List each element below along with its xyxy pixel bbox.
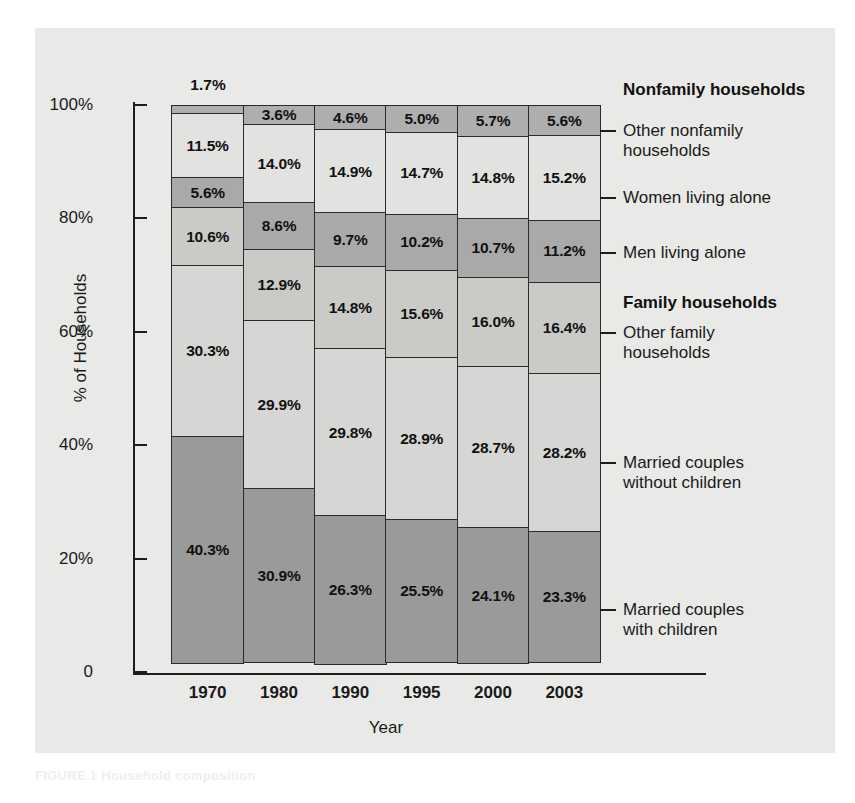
y-tick-label: 40%	[0, 435, 93, 455]
bar-segment[interactable]: 12.9%	[243, 249, 316, 322]
figure-panel: % of Households Year 100%80%60%40%20%0 1…	[35, 28, 835, 753]
legend-label: Men living alone	[623, 243, 746, 263]
bar-segment[interactable]: 10.7%	[457, 218, 530, 279]
x-tick-label-1990: 1990	[315, 683, 386, 703]
bar-column-1970[interactable]: 11.5%5.6%10.6%30.3%40.3%	[172, 105, 243, 672]
y-tick-mark	[133, 671, 147, 673]
top-value-annotation-1970: 1.7%	[172, 76, 244, 94]
bar-segment[interactable]: 5.6%	[528, 105, 601, 137]
bar-segment[interactable]: 23.3%	[528, 531, 601, 663]
bar-segment[interactable]: 16.0%	[457, 277, 530, 368]
bar-column-2003[interactable]: 5.6%15.2%11.2%16.4%28.2%23.3%	[529, 105, 600, 672]
x-axis-title: Year	[172, 718, 600, 738]
legend-label: Other nonfamily households	[623, 121, 743, 161]
legend-label: Other family households	[623, 323, 715, 363]
bar-segment[interactable]: 5.7%	[457, 105, 530, 137]
legend-leader-line-icon	[600, 197, 616, 199]
bar-segment[interactable]: 3.6%	[243, 105, 316, 125]
bar-segment[interactable]: 30.9%	[243, 488, 316, 663]
bar-segment[interactable]: 28.9%	[385, 357, 458, 521]
bar-segment[interactable]: 29.9%	[243, 320, 316, 490]
bar-segment[interactable]: 4.6%	[314, 105, 387, 131]
bar-segment[interactable]: 14.0%	[243, 124, 316, 203]
legend-leader-line-icon	[600, 252, 616, 254]
y-tick-label: 100%	[0, 95, 93, 115]
x-tick-label-2003: 2003	[529, 683, 600, 703]
y-tick-mark	[133, 104, 147, 106]
legend-label: Married couples without children	[623, 453, 744, 493]
legend-leader-line-icon	[600, 130, 616, 132]
legend-entry[interactable]: Other family households	[600, 323, 715, 363]
y-tick-mark	[133, 444, 147, 446]
figure-caption: FIGURE 1 Household composition	[35, 768, 735, 783]
bar-segment[interactable]: 24.1%	[457, 527, 530, 664]
y-tick-label: 20%	[0, 549, 93, 569]
legend-entry[interactable]: Other nonfamily households	[600, 121, 743, 161]
legend: Nonfamily householdsFamily householdsOth…	[600, 28, 835, 753]
y-tick-mark	[133, 331, 147, 333]
legend-label: Married couples with children	[623, 600, 744, 640]
bar-segment[interactable]: 28.7%	[457, 366, 530, 529]
bar-segment[interactable]: 30.3%	[171, 265, 244, 437]
x-tick-label-1980: 1980	[243, 683, 314, 703]
stacked-bar-plot-area: 11.5%5.6%10.6%30.3%40.3%3.6%14.0%8.6%12.…	[172, 105, 600, 672]
bar-segment[interactable]: 14.8%	[457, 136, 530, 220]
legend-leader-line-icon	[600, 332, 616, 334]
bar-segment[interactable]: 40.3%	[171, 436, 244, 665]
bar-segment[interactable]: 15.2%	[528, 135, 601, 221]
bar-segment[interactable]: 25.5%	[385, 519, 458, 664]
bar-segment[interactable]: 5.0%	[385, 105, 458, 133]
bar-segment[interactable]: 5.6%	[171, 177, 244, 209]
bar-segment[interactable]: 16.4%	[528, 282, 601, 375]
bar-segment[interactable]: 11.5%	[171, 113, 244, 178]
legend-entry[interactable]: Men living alone	[600, 243, 746, 263]
bar-segment[interactable]: 14.7%	[385, 132, 458, 215]
x-tick-label-1970: 1970	[172, 683, 243, 703]
bar-segment[interactable]: 29.8%	[314, 348, 387, 517]
legend-entry[interactable]: Women living alone	[600, 188, 771, 208]
bar-column-1990[interactable]: 4.6%14.9%9.7%14.8%29.8%26.3%	[315, 105, 386, 672]
bar-segment[interactable]: 14.9%	[314, 129, 387, 213]
bar-segment[interactable]: 11.2%	[528, 220, 601, 284]
y-tick-label: 0	[0, 662, 93, 682]
legend-leader-line-icon	[600, 609, 616, 611]
bar-segment[interactable]: 14.8%	[314, 266, 387, 350]
legend-leader-line-icon	[600, 462, 616, 464]
bar-segment[interactable]: 8.6%	[243, 202, 316, 251]
bar-column-2000[interactable]: 5.7%14.8%10.7%16.0%28.7%24.1%	[457, 105, 528, 672]
x-tick-label-2000: 2000	[457, 683, 528, 703]
legend-group-header: Nonfamily households	[623, 80, 805, 100]
bar-column-1980[interactable]: 3.6%14.0%8.6%12.9%29.9%30.9%	[243, 105, 314, 672]
y-tick-label: 80%	[0, 208, 93, 228]
y-tick-mark	[133, 217, 147, 219]
bar-segment[interactable]: 26.3%	[314, 515, 387, 664]
bar-segment[interactable]: 9.7%	[314, 212, 387, 267]
bar-segment[interactable]: 15.6%	[385, 270, 458, 358]
bar-segment[interactable]: 28.2%	[528, 373, 601, 533]
y-tick-label: 60%	[0, 322, 93, 342]
legend-entry[interactable]: Married couples without children	[600, 453, 744, 493]
legend-group-header: Family households	[623, 293, 777, 313]
legend-label: Women living alone	[623, 188, 771, 208]
bar-segment[interactable]: 10.2%	[385, 214, 458, 272]
x-tick-label-1995: 1995	[386, 683, 457, 703]
y-axis-line	[133, 102, 135, 675]
bar-column-1995[interactable]: 5.0%14.7%10.2%15.6%28.9%25.5%	[386, 105, 457, 672]
bar-segment[interactable]: 10.6%	[171, 207, 244, 267]
legend-entry[interactable]: Married couples with children	[600, 600, 744, 640]
y-tick-mark	[133, 558, 147, 560]
